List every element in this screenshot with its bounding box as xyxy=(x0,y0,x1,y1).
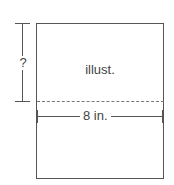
fold-dashed-line xyxy=(37,101,164,102)
illustration-label: illust. xyxy=(36,62,164,77)
width-dimension-left-cap xyxy=(37,110,38,123)
height-label: ? xyxy=(16,56,30,70)
height-dimension-top-cap xyxy=(15,23,30,24)
height-dimension-bottom-cap xyxy=(15,101,30,102)
width-dimension-right-cap xyxy=(162,110,163,123)
width-label: 8 in. xyxy=(80,108,111,124)
